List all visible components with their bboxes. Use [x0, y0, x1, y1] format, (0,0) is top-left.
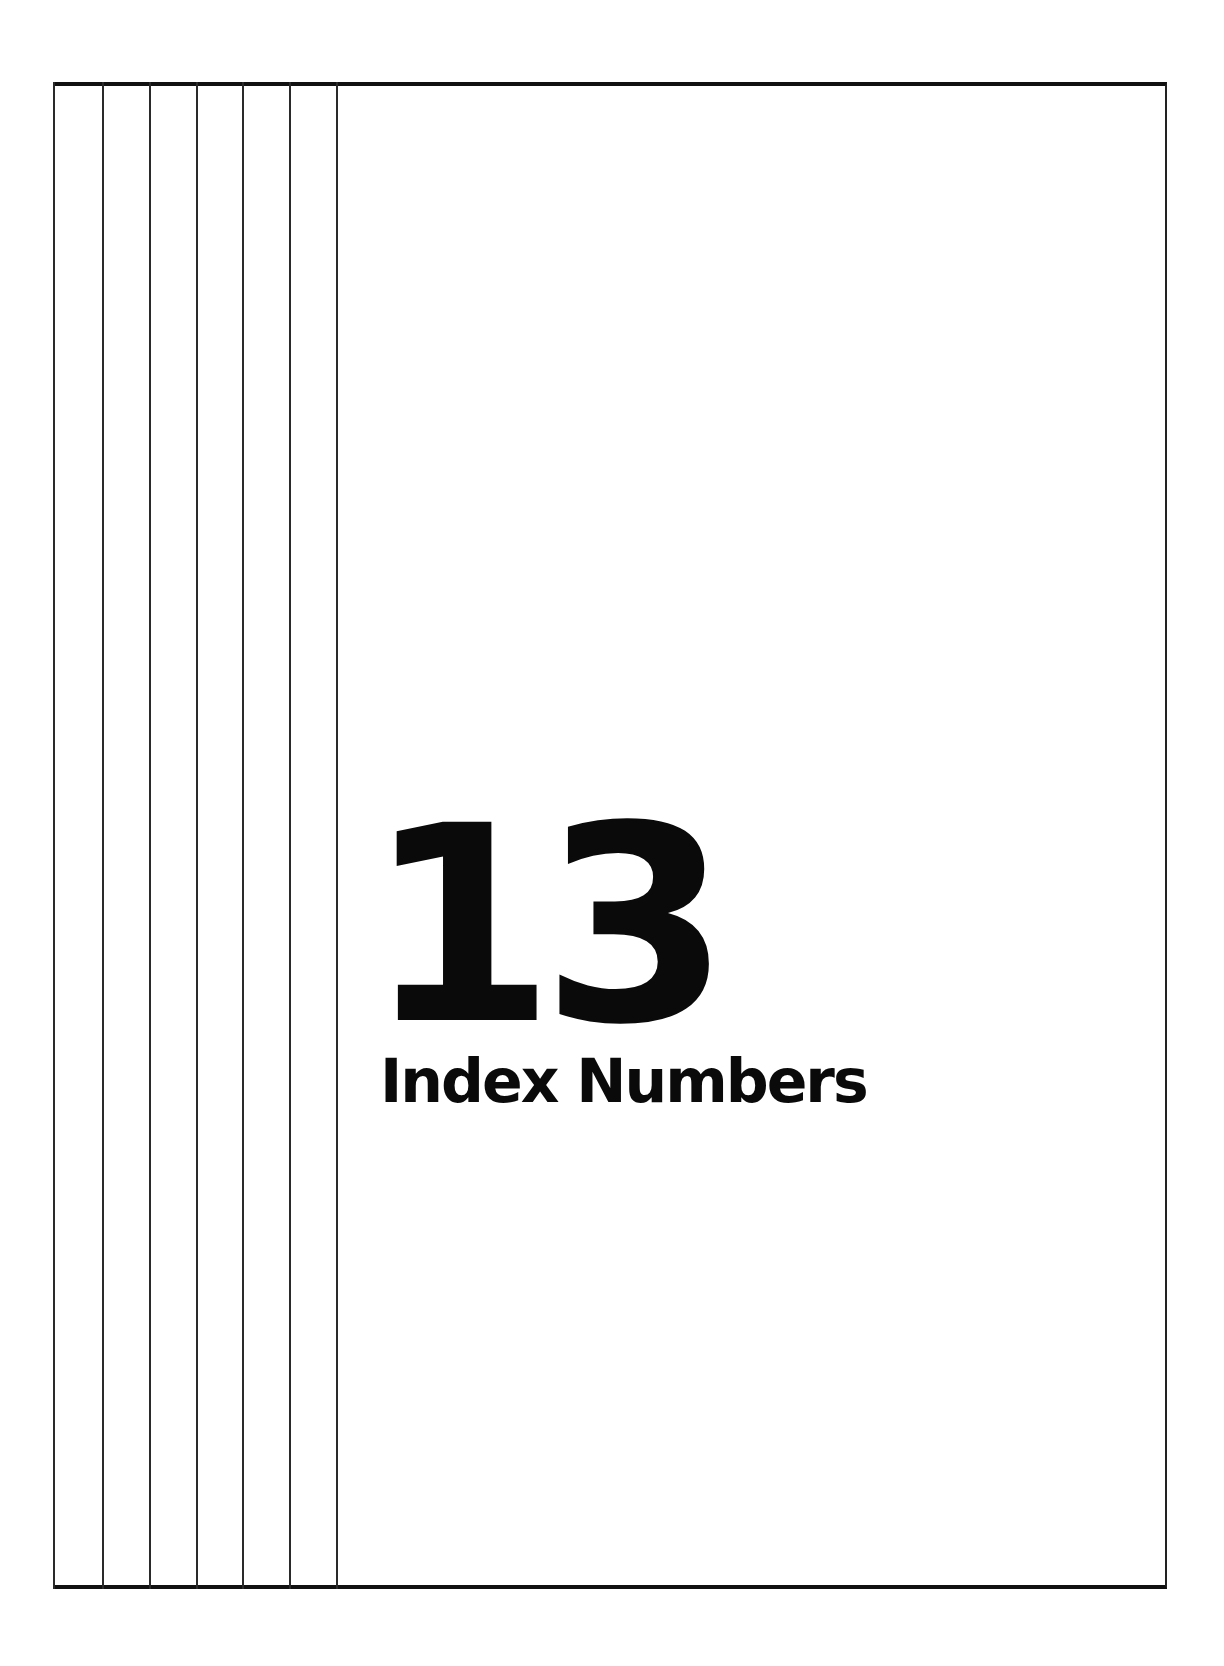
margin-rule-4 [196, 82, 198, 1589]
margin-rule-2 [102, 82, 104, 1589]
margin-rule-5 [242, 82, 244, 1589]
margin-rule-7 [336, 82, 338, 1589]
chapter-number: 13 [366, 790, 717, 1062]
margin-rule-3 [149, 82, 151, 1589]
margin-rule-6 [289, 82, 291, 1589]
chapter-title: Index Numbers [380, 1048, 867, 1114]
margin-rule-1 [53, 82, 55, 1589]
